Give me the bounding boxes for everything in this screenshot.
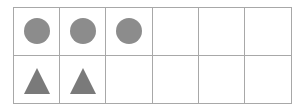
- frame-cell: [60, 8, 106, 56]
- frame-cell: [106, 8, 152, 56]
- frame-cell: [199, 8, 245, 56]
- frame-cell: [60, 56, 106, 104]
- circle-icon: [24, 18, 50, 44]
- frame-cell: [14, 56, 60, 104]
- triangle-icon: [24, 68, 50, 94]
- frame-cell: [106, 56, 152, 104]
- circle-icon: [70, 18, 96, 44]
- frame-cell: [199, 56, 245, 104]
- counting-frame-grid: [13, 7, 292, 104]
- circle-icon: [116, 18, 142, 44]
- triangle-icon: [70, 68, 96, 94]
- frame-cell: [14, 8, 60, 56]
- frame-cell: [245, 56, 291, 104]
- frame-cell: [245, 8, 291, 56]
- frame-cell: [153, 56, 199, 104]
- frame-cell: [153, 8, 199, 56]
